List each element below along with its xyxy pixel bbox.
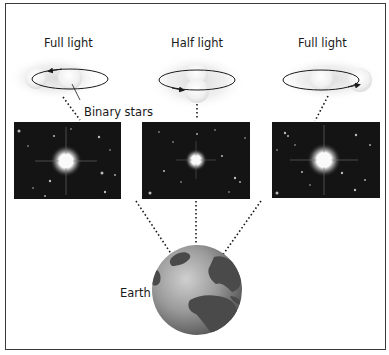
sky-panel-1 xyxy=(14,122,121,199)
column-label-1: Full light xyxy=(44,36,93,50)
binary-stars-label: Binary stars xyxy=(84,105,153,119)
column-label-3: Full light xyxy=(298,36,347,50)
sky-panel-2 xyxy=(142,122,250,199)
column-label-2: Half light xyxy=(171,36,224,50)
earth-globe xyxy=(150,245,242,335)
sky-panel-3 xyxy=(272,122,380,198)
binary-star-eclipse-diagram: Full light Half light Full light Binary … xyxy=(0,0,389,355)
earth-label: Earth xyxy=(120,286,151,300)
binary-stars-full-light-left xyxy=(7,56,108,100)
binary-stars-half-light xyxy=(149,54,245,110)
binary-stars-full-light-right xyxy=(278,57,382,101)
